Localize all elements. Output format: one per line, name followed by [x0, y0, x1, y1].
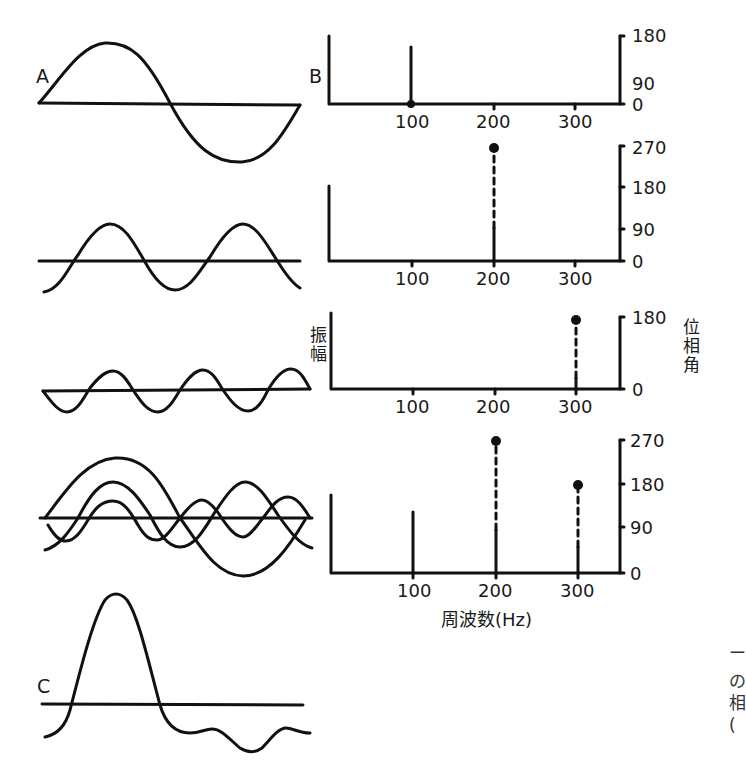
x-tick-300: 300 — [558, 398, 592, 416]
waveform-c-complex — [42, 594, 310, 752]
caption-fragment: ー の 相 ( — [729, 642, 746, 736]
phase-tick: 180 — [632, 179, 666, 197]
amplitude-axis-label: 振 幅 — [309, 326, 327, 364]
phase-tick: 270 — [630, 432, 664, 450]
panel-label-b: B — [309, 67, 322, 86]
phase-tick: 90 — [630, 519, 653, 537]
phase-tick: 180 — [630, 476, 664, 494]
waveform-300hz — [43, 369, 310, 412]
spectrum-panel-3 — [331, 313, 624, 394]
phase-dot-200 — [489, 143, 499, 153]
x-tick-300: 300 — [558, 270, 592, 288]
frequency-axis-label: 周波数(Hz) — [441, 605, 532, 631]
phase-tick: 0 — [632, 96, 643, 114]
x-tick-100: 100 — [397, 582, 431, 600]
panel-label-c: C — [37, 677, 50, 696]
waveform-200hz — [39, 224, 300, 292]
x-tick-200: 200 — [478, 582, 512, 600]
waveform-a-fundamental — [39, 43, 300, 162]
x-tick-200: 200 — [476, 113, 510, 131]
waveform-overlay — [40, 458, 312, 576]
x-tick-200: 200 — [476, 270, 510, 288]
x-tick-100: 100 — [395, 270, 429, 288]
phase-tick: 90 — [632, 221, 655, 239]
x-tick-200: 200 — [476, 398, 510, 416]
x-tick-100: 100 — [395, 113, 429, 131]
panel-label-a: A — [36, 67, 49, 86]
phase-dot-100 — [407, 100, 415, 108]
x-tick-300: 300 — [560, 582, 594, 600]
spectrum-panel-2 — [329, 143, 624, 266]
phase-dot-300 — [571, 315, 581, 325]
phase-dot-200 — [491, 436, 501, 446]
phase-tick: 180 — [632, 309, 666, 327]
phase-axis-label: 位 相 角 — [682, 318, 700, 375]
phase-tick: 270 — [632, 139, 666, 157]
phase-tick: 0 — [632, 253, 643, 271]
x-tick-300: 300 — [558, 113, 592, 131]
phase-tick: 90 — [632, 75, 655, 93]
spectrum-panel-1 — [329, 36, 624, 109]
phase-dot-300 — [573, 480, 583, 490]
spectrum-panel-4 — [331, 436, 624, 578]
phase-tick: 0 — [632, 381, 643, 399]
phase-tick: 0 — [630, 565, 641, 583]
x-tick-100: 100 — [395, 398, 429, 416]
phase-tick: 180 — [632, 27, 666, 45]
